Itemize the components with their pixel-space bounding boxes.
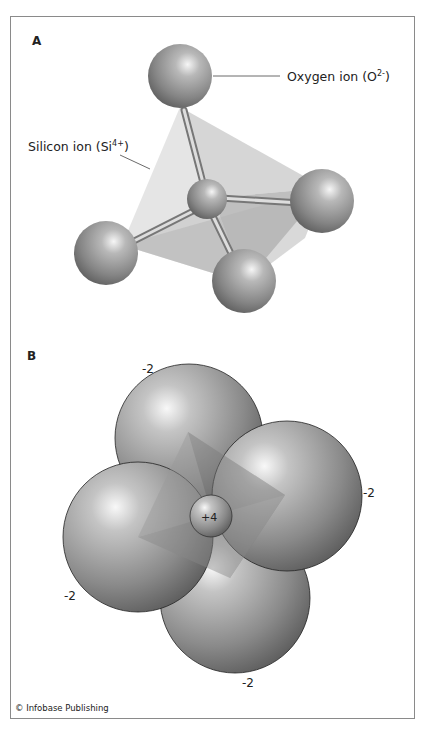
silicate-tetrahedron-diagram: A Oxygen ion (O2-) Silicon ion (Si4+) B … — [0, 0, 422, 730]
charge-bottom: -2 — [242, 676, 254, 690]
oxygen-ion-bottom — [212, 249, 276, 313]
charge-center: +4 — [201, 511, 217, 524]
oxygen-ion-right — [290, 169, 354, 233]
charge-right: -2 — [363, 486, 375, 500]
copyright-text: © Infobase Publishing — [15, 703, 109, 713]
silicon-leader-line — [120, 155, 150, 169]
silicon-ion-label: Silicon ion (Si4+) — [28, 139, 129, 154]
oxygen-ion-label: Oxygen ion (O2-) — [287, 69, 390, 84]
panel-b-label: B — [27, 349, 36, 363]
charge-top: -2 — [142, 362, 154, 376]
charge-left: -2 — [64, 589, 76, 603]
silicon-ion — [187, 179, 227, 219]
oxygen-ion-top — [148, 44, 212, 108]
panel-a-label: A — [32, 34, 42, 48]
oxygen-ion-left — [74, 221, 138, 285]
